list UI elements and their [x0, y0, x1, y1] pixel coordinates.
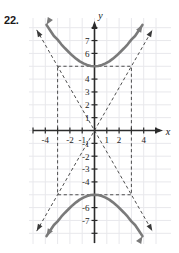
- x-axis-label: x: [165, 126, 171, 137]
- y-tick-label: -2: [82, 152, 90, 162]
- y-tick-label: 4: [85, 74, 90, 84]
- y-tick-label: -6: [82, 203, 90, 213]
- y-tick-label: 7: [85, 36, 90, 46]
- y-tick-label: 3: [85, 87, 90, 97]
- hyperbola-figure: -4-2-1124764321-1-2-3-4-6-7 xy: [0, 0, 179, 253]
- y-tick-label: -4: [82, 177, 90, 187]
- x-tick-label: 2: [117, 135, 122, 145]
- y-tick-label: 6: [85, 49, 90, 59]
- x-tick-label: -4: [42, 135, 50, 145]
- y-tick-label: -7: [82, 216, 90, 226]
- x-tick-label: 4: [141, 135, 146, 145]
- hyperbola-plot: -4-2-1124764321-1-2-3-4-6-7 xy: [0, 0, 179, 253]
- x-tick-label: -2: [66, 135, 74, 145]
- y-tick-label: 2: [85, 100, 90, 110]
- y-axis-label: y: [97, 10, 103, 21]
- y-tick-label: -1: [82, 139, 90, 149]
- y-tick-label: 1: [85, 113, 90, 123]
- x-tick-label: 1: [105, 135, 110, 145]
- y-tick-label: -3: [82, 164, 90, 174]
- figure-root: 22. -4-2-1124764321-1-2-3-4-6-7 xy: [0, 0, 179, 253]
